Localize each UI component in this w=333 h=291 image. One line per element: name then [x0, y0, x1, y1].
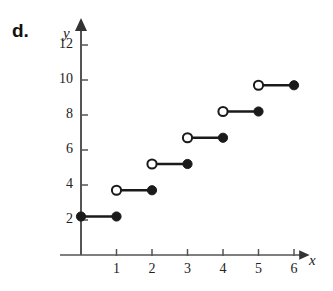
closed-endpoint-right [183, 159, 192, 168]
x-tick-label: 5 [252, 261, 266, 277]
step-segment [183, 133, 228, 142]
open-endpoint-left [218, 107, 227, 116]
closed-endpoint-right [112, 212, 121, 221]
closed-endpoint-right [254, 107, 263, 116]
open-endpoint-left [183, 133, 192, 142]
y-tick-label: 4 [47, 176, 73, 192]
step-segment [147, 159, 192, 168]
x-tick-label: 4 [216, 261, 230, 277]
y-tick-label: 10 [47, 71, 73, 87]
step-function-figure: d. y x 24681012 123456 [0, 0, 333, 291]
step-segment [254, 81, 299, 90]
step-segment [218, 107, 263, 116]
open-endpoint-left [112, 186, 121, 195]
open-endpoint-left [254, 81, 263, 90]
y-tick-label: 2 [47, 211, 73, 227]
closed-endpoint-left [76, 212, 85, 221]
y-tick-label: 12 [47, 36, 73, 52]
x-tick-label: 1 [110, 261, 124, 277]
step-segment [112, 186, 157, 195]
step-segment [76, 212, 121, 221]
closed-endpoint-right [147, 186, 156, 195]
open-endpoint-left [147, 159, 156, 168]
step-segments [76, 81, 298, 221]
x-tick-label: 2 [145, 261, 159, 277]
x-tick-label: 6 [287, 261, 301, 277]
y-tick-label: 8 [47, 106, 73, 122]
closed-endpoint-right [218, 133, 227, 142]
axis-lines [60, 30, 300, 255]
closed-endpoint-right [289, 81, 298, 90]
y-tick-label: 6 [47, 141, 73, 157]
x-tick-label: 3 [181, 261, 195, 277]
